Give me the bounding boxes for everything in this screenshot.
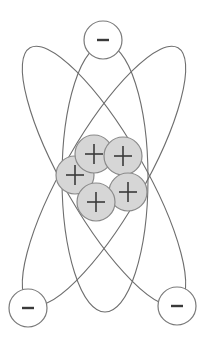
nucleus	[56, 135, 147, 221]
atom-svg	[0, 0, 207, 346]
electron-bottom-right	[158, 287, 196, 325]
proton-bottom	[77, 183, 115, 221]
tilted-orbit-right-path	[0, 28, 207, 324]
electrons-group	[9, 21, 196, 327]
tilted-orbit-left-path	[0, 28, 207, 324]
electron-top	[84, 21, 122, 59]
orbits-group	[0, 28, 207, 324]
proton-top-right	[104, 137, 142, 175]
electron-bottom-left	[9, 289, 47, 327]
atom-diagram	[0, 0, 207, 346]
